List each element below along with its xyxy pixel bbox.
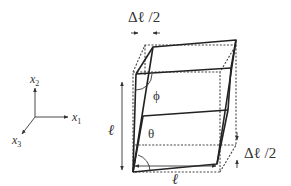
height-label: ℓ	[108, 122, 114, 138]
x2-label: x2	[29, 72, 39, 88]
x3-axis-arrow	[22, 117, 35, 134]
phi-arc	[136, 74, 152, 90]
phi-label: ϕ	[153, 88, 160, 103]
x1-label: x1	[71, 110, 81, 126]
right-displacement-label: Δℓ /2	[244, 145, 276, 161]
shear-diagram: x2 x1 x3 ϕ θ Δℓ /2 ℓ	[0, 0, 291, 186]
theta-arc	[138, 155, 150, 171]
x3-label: x3	[11, 133, 21, 149]
original-cube-dashed	[133, 45, 236, 172]
coordinate-axes	[22, 88, 68, 134]
width-label: ℓ	[172, 171, 178, 186]
theta-label: θ	[148, 126, 154, 141]
top-displacement-label: Δℓ /2	[128, 9, 160, 25]
